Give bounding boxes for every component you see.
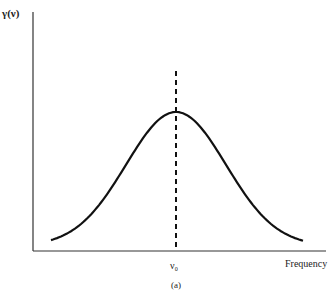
center-frequency-tick: ν₀ — [170, 260, 178, 271]
figure: γ(ν) ν₀ Frequency (a) — [0, 0, 334, 297]
plot-area — [0, 0, 334, 297]
x-axis-label: Frequency — [285, 258, 327, 269]
y-axis-label: γ(ν) — [2, 7, 19, 19]
gaussian-curve — [51, 112, 303, 241]
figure-caption: (a) — [171, 280, 181, 290]
